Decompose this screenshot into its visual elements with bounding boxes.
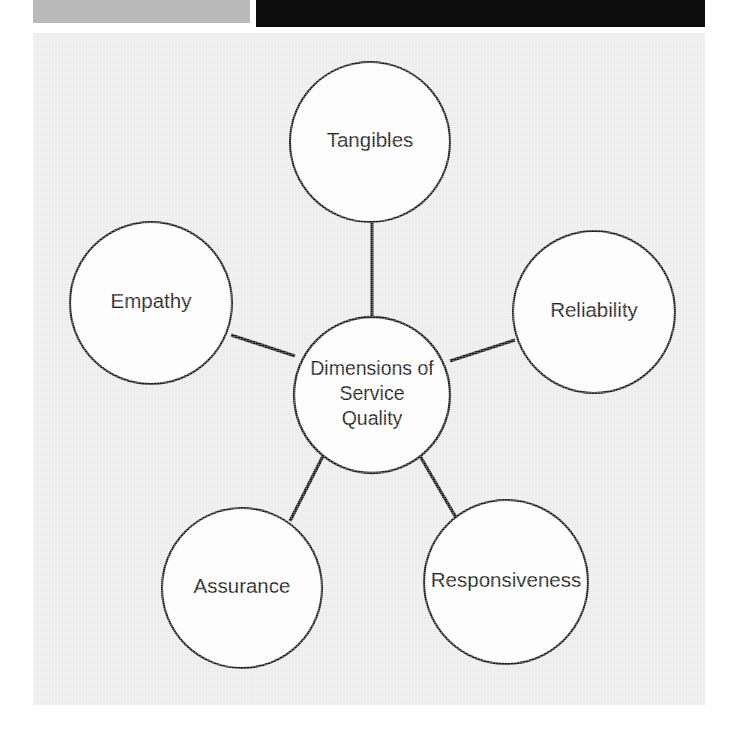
node-reliability[interactable]: Reliability xyxy=(513,231,675,393)
scan-header-bars xyxy=(0,0,735,33)
node-responsiveness[interactable]: Responsiveness xyxy=(424,500,588,664)
node-tangibles[interactable]: Tangibles xyxy=(290,62,450,222)
connector-center-to-empathy xyxy=(231,335,295,356)
connector-center-to-reliability xyxy=(450,340,515,361)
gray-scan-bar xyxy=(33,0,250,23)
service-quality-diagram: TangiblesReliabilityResponsivenessAssura… xyxy=(33,33,705,705)
node-label-reliability: Reliability xyxy=(550,298,638,321)
diagram-panel: TangiblesReliabilityResponsivenessAssura… xyxy=(33,33,705,705)
diagram-nodes-group: TangiblesReliabilityResponsivenessAssura… xyxy=(70,62,675,668)
connector-center-to-responsiveness xyxy=(420,456,458,521)
node-label-assurance: Assurance xyxy=(194,574,291,597)
node-label-empathy: Empathy xyxy=(111,289,193,312)
node-center[interactable]: Dimensions ofServiceQuality xyxy=(294,317,450,473)
node-label-center: Quality xyxy=(342,407,403,429)
node-label-center: Service xyxy=(339,382,404,404)
node-label-center: Dimensions of xyxy=(310,357,434,379)
node-label-responsiveness: Responsiveness xyxy=(431,568,581,591)
black-scan-bar xyxy=(256,0,705,27)
node-label-tangibles: Tangibles xyxy=(327,128,414,151)
node-empathy[interactable]: Empathy xyxy=(70,222,232,384)
connector-center-to-assurance xyxy=(290,456,323,521)
node-assurance[interactable]: Assurance xyxy=(162,508,322,668)
